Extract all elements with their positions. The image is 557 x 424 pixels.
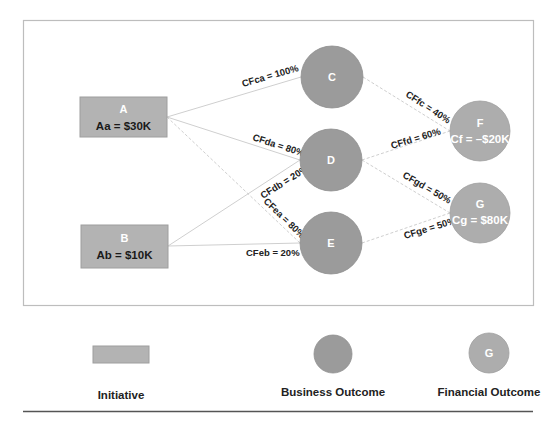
- financial-outcome-f-value: Cf = –$20K: [450, 133, 510, 145]
- legend-business-outcome: Business Outcome: [281, 335, 385, 398]
- legend-financial-outcome: G Financial Outcome: [438, 333, 541, 398]
- initiative-a-label: A: [120, 103, 128, 115]
- initiative-b-label: B: [121, 232, 129, 244]
- initiative-a[interactable]: A Aa = $30K: [80, 97, 167, 137]
- initiative-a-value: Aa = $30K: [96, 120, 152, 132]
- financial-outcome-f-circle: [450, 101, 510, 161]
- legend-initiative-swatch: [93, 346, 149, 363]
- diagram-stage: CFca = 100% CFda = 80% CFea = 80% CFdb =…: [0, 0, 557, 424]
- business-outcome-d[interactable]: D: [300, 129, 362, 191]
- legend-financial-outcome-letter: G: [485, 347, 494, 359]
- financial-outcome-g-value: Cg = $80K: [452, 214, 509, 226]
- business-outcome-d-label: D: [327, 154, 335, 166]
- initiative-b[interactable]: B Ab = $10K: [81, 225, 168, 268]
- business-outcome-e-label: E: [327, 237, 334, 249]
- edge-label-eb: CFeb = 20%: [246, 247, 300, 258]
- business-outcome-e[interactable]: E: [300, 212, 362, 274]
- legend-initiative-label: Initiative: [98, 389, 145, 401]
- legend: Initiative Business Outcome G Financial …: [93, 333, 540, 401]
- financial-outcome-f-label: F: [477, 117, 484, 129]
- initiative-b-value: Ab = $10K: [97, 249, 154, 261]
- legend-financial-outcome-label: Financial Outcome: [438, 386, 541, 398]
- business-outcome-c-label: C: [328, 71, 336, 83]
- diagram-canvas: CFca = 100% CFda = 80% CFea = 80% CFdb =…: [0, 0, 557, 424]
- legend-business-outcome-label: Business Outcome: [281, 386, 385, 398]
- legend-business-outcome-swatch: [314, 335, 352, 373]
- financial-outcome-g-label: G: [476, 198, 485, 210]
- legend-initiative: Initiative: [93, 346, 149, 401]
- financial-outcome-f[interactable]: F Cf = –$20K: [450, 101, 510, 161]
- financial-outcome-g[interactable]: G Cg = $80K: [450, 183, 510, 243]
- business-outcome-c[interactable]: C: [301, 46, 363, 108]
- financial-outcome-g-circle: [450, 183, 510, 243]
